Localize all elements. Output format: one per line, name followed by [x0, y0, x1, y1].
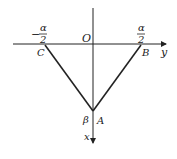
- point-b-label: B: [141, 47, 149, 58]
- segment-CA: [45, 45, 93, 111]
- b-coord-denominator: 2: [137, 34, 144, 45]
- c-coord-sign: −: [31, 28, 40, 41]
- point-c-label: C: [37, 47, 45, 58]
- c-coord-numerator: α: [40, 22, 47, 33]
- triangle-axes-diagram: − α 2 O α 2 C B y β A x: [0, 0, 177, 159]
- b-coord-numerator: α: [138, 22, 145, 33]
- origin-label: O: [82, 32, 91, 45]
- point-a-label: A: [96, 115, 104, 126]
- angle-beta-label: β: [82, 114, 89, 125]
- y-axis-label: y: [160, 46, 168, 59]
- c-coord-denominator: 2: [39, 34, 46, 45]
- x-axis-label: x: [84, 131, 90, 142]
- segment-BA: [93, 45, 141, 111]
